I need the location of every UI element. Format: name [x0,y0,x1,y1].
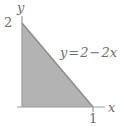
equation-slope-term: 2x [101,45,117,60]
x-axis-tick-label-1: 1 [89,112,97,125]
equation-equals: = [67,45,80,60]
y-axis-label: y [17,1,24,14]
line-equation-annotation: y=2−2x [60,46,117,59]
figure-canvas [0,0,123,126]
equation-minus: − [89,45,102,60]
equation-intercept: 2 [80,45,88,60]
math-figure: y x 2 1 y=2−2x [0,0,123,126]
y-axis-tick-label-2: 2 [4,16,12,29]
x-axis-label: x [108,101,115,114]
